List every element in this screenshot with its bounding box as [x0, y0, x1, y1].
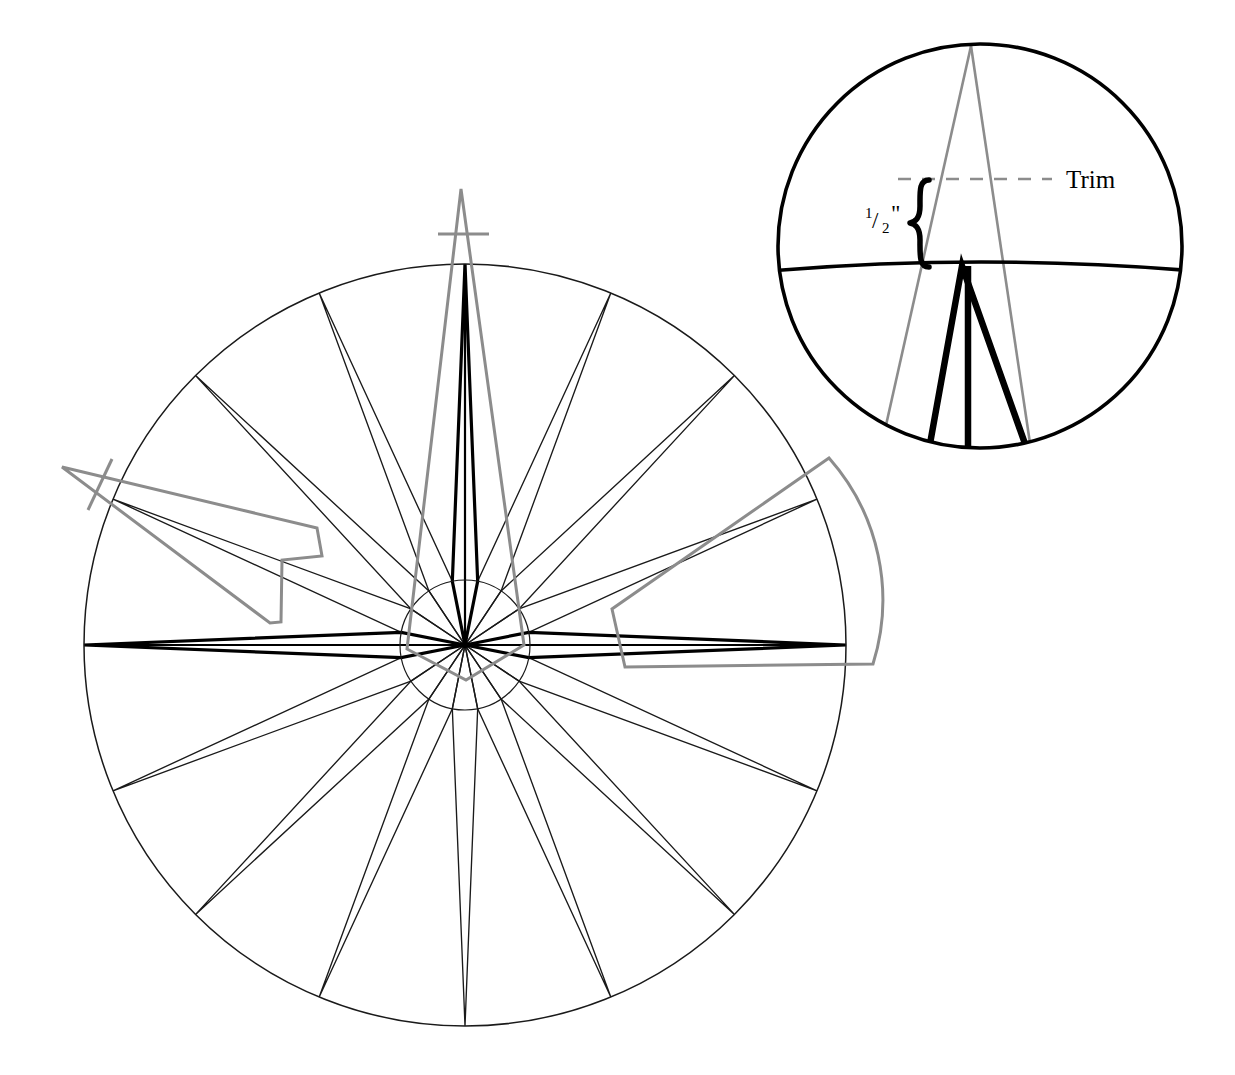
compass-rose-drawing: Trim 1 / 2 " [0, 0, 1235, 1075]
fraction-bar: / [872, 208, 879, 233]
rose-center-point [462, 642, 468, 648]
trim-label: Trim [1066, 166, 1116, 193]
fraction-unit: " [891, 201, 900, 226]
fraction-denominator: 2 [882, 220, 890, 236]
